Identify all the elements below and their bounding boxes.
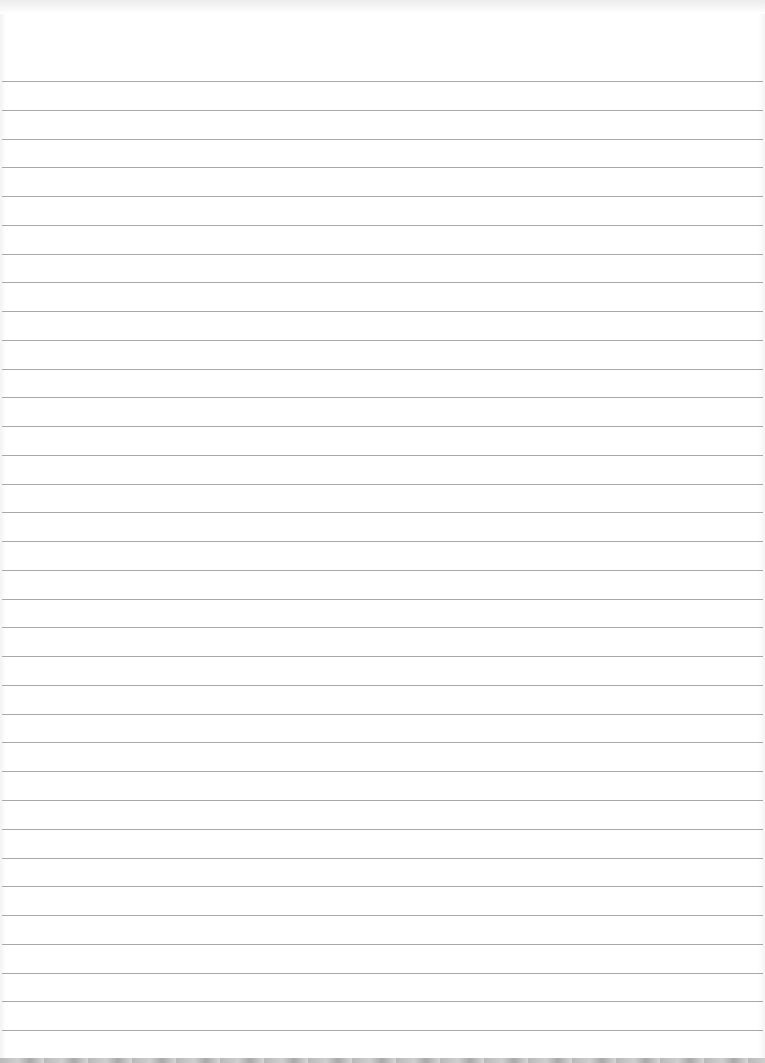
ruled-line	[2, 599, 763, 600]
ruled-line	[2, 858, 763, 859]
ruled-line	[2, 110, 763, 111]
ruled-line	[2, 656, 763, 657]
ruled-line	[2, 397, 763, 398]
ruled-line	[2, 282, 763, 283]
ruled-line	[2, 1030, 763, 1031]
ruled-line	[2, 512, 763, 513]
ruled-line	[2, 139, 763, 140]
bottom-edge	[0, 1058, 765, 1063]
ruled-line	[2, 369, 763, 370]
ruled-line	[2, 1001, 763, 1002]
ruled-line	[2, 570, 763, 571]
ruled-line	[2, 973, 763, 974]
ruled-line	[2, 714, 763, 715]
ruled-line	[2, 455, 763, 456]
ruled-line	[2, 225, 763, 226]
ruled-line	[2, 311, 763, 312]
top-margin-shadow	[0, 0, 765, 14]
lined-paper-sheet	[0, 0, 765, 1063]
ruled-line	[2, 886, 763, 887]
ruled-line	[2, 800, 763, 801]
ruled-line	[2, 81, 763, 82]
ruled-line	[2, 685, 763, 686]
ruled-line	[2, 829, 763, 830]
ruled-line	[2, 915, 763, 916]
ruled-line	[2, 541, 763, 542]
ruled-line	[2, 340, 763, 341]
ruled-line	[2, 484, 763, 485]
ruled-line	[2, 944, 763, 945]
ruled-line	[2, 426, 763, 427]
ruled-line	[2, 196, 763, 197]
ruled-line	[2, 742, 763, 743]
ruled-line	[2, 627, 763, 628]
ruled-line	[2, 167, 763, 168]
ruled-line	[2, 771, 763, 772]
ruled-line	[2, 254, 763, 255]
